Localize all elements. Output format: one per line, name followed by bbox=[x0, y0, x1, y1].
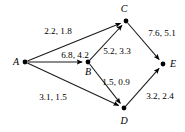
node-label-e: E bbox=[169, 58, 176, 69]
edge-label-d-e: 3.2, 2.4 bbox=[146, 91, 174, 101]
edge-label-b-d: 1.5, 0.9 bbox=[102, 77, 130, 87]
graph-node-e bbox=[161, 62, 166, 67]
graph-node-c bbox=[124, 19, 129, 24]
edge-label-c-e: 7.6, 5.1 bbox=[148, 28, 176, 38]
graph-canvas: 2.2, 1.86.8, 4.23.1, 1.55.2, 3.31.5, 0.9… bbox=[0, 0, 185, 132]
node-label-b: B bbox=[85, 66, 91, 77]
edge-label-a-d: 3.1, 1.5 bbox=[39, 92, 67, 102]
directed-graph-figure: 2.2, 1.86.8, 4.23.1, 1.55.2, 3.31.5, 0.9… bbox=[0, 0, 185, 132]
graph-node-d bbox=[122, 106, 127, 111]
node-label-d: D bbox=[119, 115, 128, 126]
edge-label-a-b: 6.8, 4.2 bbox=[61, 50, 89, 60]
edge-label-b-c: 5.2, 3.3 bbox=[103, 46, 131, 56]
node-label-a: A bbox=[12, 56, 20, 67]
edge-label-a-c: 2.2, 1.8 bbox=[44, 26, 72, 36]
edge-labels-layer: 2.2, 1.86.8, 4.23.1, 1.55.2, 3.31.5, 0.9… bbox=[39, 26, 176, 102]
node-label-c: C bbox=[121, 3, 128, 14]
node-labels-layer: ABCDE bbox=[12, 3, 176, 126]
graph-node-a bbox=[23, 60, 28, 65]
graph-node-b bbox=[86, 60, 91, 65]
